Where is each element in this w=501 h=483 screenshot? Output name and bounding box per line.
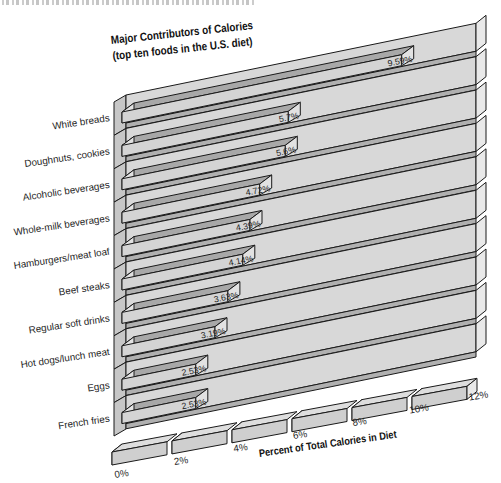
figure-page: Major Contributors of Calories (top ten … (0, 0, 501, 483)
category-label: Regular soft drinks (28, 312, 111, 335)
category-label: Hamburgers/meat loaf (13, 246, 111, 271)
shelf-end-cap (476, 115, 486, 151)
category-label: Hot dogs/lunch meat (20, 346, 111, 370)
x-axis-tick-label: 0% (114, 467, 130, 480)
shelf-end-cap (476, 182, 486, 218)
shelf-end-cap (476, 282, 486, 318)
category-label: White breads (52, 112, 111, 131)
shelf-end-cap (476, 82, 486, 118)
x-axis-tick-label: 10% (408, 402, 429, 416)
category-label: French fries (58, 413, 111, 432)
category-label: Whole-milk beverages (13, 212, 111, 237)
shelf-end-cap (476, 316, 486, 352)
shelf-end-cap (476, 216, 486, 252)
x-axis-tick-label: 12% (468, 389, 489, 403)
category-label: Beef steaks (58, 279, 110, 297)
x-axis-tick-label: 8% (352, 415, 368, 428)
category-label: Eggs (87, 379, 111, 393)
shelf-end-cap (476, 15, 486, 51)
chart-canvas: 9.59%White breads5.7%Doughnuts, cookies5… (0, 0, 501, 483)
shelf-end-cap (476, 149, 486, 185)
category-label: Alcoholic beverages (22, 179, 110, 203)
x-axis-tick-label: 4% (233, 441, 249, 454)
shelf-end-cap (476, 249, 486, 285)
category-label: Doughnuts, cookies (24, 145, 111, 169)
x-axis-tick-label: 2% (173, 454, 189, 467)
shelf-end-cap (476, 49, 486, 85)
x-axis-tick-label: 6% (292, 428, 308, 441)
